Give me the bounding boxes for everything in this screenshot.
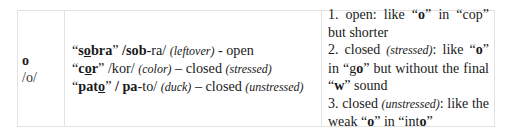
vowel-cell: o /o/ — [18, 11, 65, 126]
vowel-letter: o — [22, 52, 64, 69]
explanation-closed-stressed: 2. closed (stressed): like “o” in “go” b… — [328, 41, 489, 95]
explanation-open: 1. open: like “o” in “cop” but shorter — [328, 6, 489, 41]
pronunciation-table: o /o/ “sobra” /sob-ra/ (leftover) - open… — [17, 10, 495, 127]
explanations-cell: 1. open: like “o” in “cop” but shorter 2… — [322, 11, 494, 126]
example-line: “cor” /kor/ (color) – closed (stressed) — [72, 60, 321, 78]
vowel-ipa: /o/ — [22, 69, 64, 86]
example-line: “pato” / pa-to/ (duck) – closed (unstres… — [72, 78, 321, 96]
example-line: “sobra” /sob-ra/ (leftover) - open — [72, 42, 321, 60]
examples-cell: “sobra” /sob-ra/ (leftover) - open “cor”… — [65, 11, 322, 126]
explanation-closed-unstressed: 3. closed (unstressed): like the weak “o… — [328, 95, 489, 131]
